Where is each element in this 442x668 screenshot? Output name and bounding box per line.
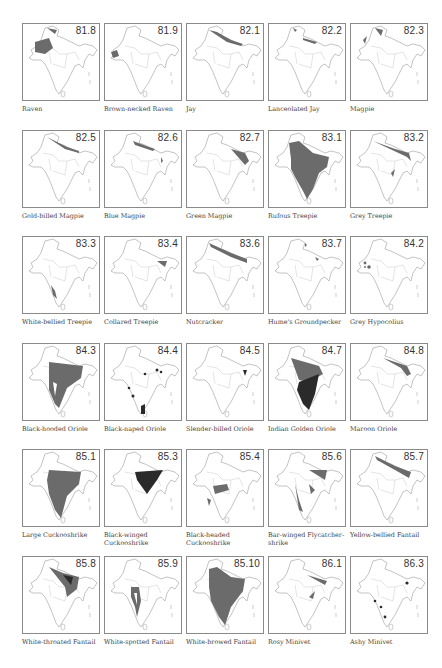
species-panel: 85.1 Large Cuckooshrike xyxy=(22,449,100,539)
species-code: 84.3 xyxy=(75,345,96,356)
species-panel: 85.6 Bar-winged Flycatcher-shrike xyxy=(268,449,346,547)
species-panel: 85.7 Yellow-bellied Fantail xyxy=(350,449,428,539)
species-name: White-throated Fantail xyxy=(22,638,100,646)
species-code: 84.7 xyxy=(321,345,342,356)
species-name: Indian Golden Oriole xyxy=(268,425,346,433)
species-name: Raven xyxy=(22,105,100,113)
species-name: White-browed Fantail xyxy=(186,638,264,646)
species-name: Black-naped Oriole xyxy=(104,425,182,433)
species-code: 85.1 xyxy=(75,451,96,462)
range-map: 86.3 xyxy=(350,556,428,634)
species-panel: 84.5 Slender-billed Oriole xyxy=(186,343,264,433)
range-map: 84.5 xyxy=(186,343,264,421)
species-code: 85.10 xyxy=(233,558,260,569)
range-map: 85.6 xyxy=(268,449,346,527)
species-name: Ashy Minivet xyxy=(350,638,428,646)
species-code: 86.1 xyxy=(321,558,342,569)
species-panel: 85.3 Black-winged Cuckooshrike xyxy=(104,449,182,547)
species-code: 85.7 xyxy=(403,451,424,462)
species-name: Grey Treepie xyxy=(350,212,428,220)
range-map: 85.8 xyxy=(22,556,100,634)
range-map: 83.6 xyxy=(186,236,264,314)
species-code: 82.6 xyxy=(157,132,178,143)
species-panel: 85.10 White-browed Fantail xyxy=(186,556,264,646)
species-panel: 85.8 White-throated Fantail xyxy=(22,556,100,646)
species-code: 85.3 xyxy=(157,451,178,462)
range-map: 84.4 xyxy=(104,343,182,421)
range-map: 85.3 xyxy=(104,449,182,527)
species-code: 84.8 xyxy=(403,345,424,356)
species-panel: 83.3 White-bellied Treepie xyxy=(22,236,100,326)
species-name: Brown-necked Raven xyxy=(104,105,182,113)
species-code: 81.8 xyxy=(75,25,96,36)
range-map: 82.5 xyxy=(22,130,100,208)
species-name: Maroon Oriole xyxy=(350,425,428,433)
range-map: 81.8 xyxy=(22,23,100,101)
range-map: 82.6 xyxy=(104,130,182,208)
species-code: 84.5 xyxy=(239,345,260,356)
species-code: 85.4 xyxy=(239,451,260,462)
species-code: 85.9 xyxy=(157,558,178,569)
range-map: 83.4 xyxy=(104,236,182,314)
species-code: 83.7 xyxy=(321,238,342,249)
species-panel: 84.2 Grey Hypocolius xyxy=(350,236,428,326)
range-map: 86.1 xyxy=(268,556,346,634)
species-name: Hume's Groundpecker xyxy=(268,318,346,326)
species-panel: 86.1 Rosy Minivet xyxy=(268,556,346,646)
species-code: 86.3 xyxy=(403,558,424,569)
species-name: Magpie xyxy=(350,105,428,113)
range-map: 85.10 xyxy=(186,556,264,634)
species-code: 83.3 xyxy=(75,238,96,249)
species-code: 83.1 xyxy=(321,132,342,143)
species-panel: 86.3 Ashy Minivet xyxy=(350,556,428,646)
species-name: Nutcracker xyxy=(186,318,264,326)
species-name: Large Cuckooshrike xyxy=(22,531,100,539)
species-panel: 82.3 Magpie xyxy=(350,23,428,113)
range-map: 83.3 xyxy=(22,236,100,314)
species-panel: 83.4 Collared Treepie xyxy=(104,236,182,326)
range-map: 84.3 xyxy=(22,343,100,421)
species-panel: 85.9 White-spotted Fantail xyxy=(104,556,182,646)
species-panel: 82.7 Green Magpie xyxy=(186,130,264,220)
species-panel: 84.8 Maroon Oriole xyxy=(350,343,428,433)
range-map: 82.7 xyxy=(186,130,264,208)
species-panel: 83.6 Nutcracker xyxy=(186,236,264,326)
species-name: Collared Treepie xyxy=(104,318,182,326)
species-code: 82.7 xyxy=(239,132,260,143)
species-code: 85.6 xyxy=(321,451,342,462)
species-name: Jay xyxy=(186,105,264,113)
species-panel: 82.1 Jay xyxy=(186,23,264,113)
species-panel: 83.7 Hume's Groundpecker xyxy=(268,236,346,326)
species-name: Green Magpie xyxy=(186,212,264,220)
species-panel: 81.8 Raven xyxy=(22,23,100,113)
range-map: 81.9 xyxy=(104,23,182,101)
range-map: 83.1 xyxy=(268,130,346,208)
species-code: 84.4 xyxy=(157,345,178,356)
range-map: 82.3 xyxy=(350,23,428,101)
species-name: Bar-winged Flycatcher-shrike xyxy=(268,531,346,547)
species-panel: 84.4 Black-naped Oriole xyxy=(104,343,182,433)
species-name: Grey Hypocolius xyxy=(350,318,428,326)
species-name: Gold-billed Magpie xyxy=(22,212,100,220)
species-name: Rufous Treepie xyxy=(268,212,346,220)
species-name: Lanceolated Jay xyxy=(268,105,346,113)
species-panel: 83.2 Grey Treepie xyxy=(350,130,428,220)
species-name: White-spotted Fantail xyxy=(104,638,182,646)
species-code: 81.9 xyxy=(157,25,178,36)
range-map: 83.2 xyxy=(350,130,428,208)
range-map: 83.7 xyxy=(268,236,346,314)
species-code: 84.2 xyxy=(403,238,424,249)
range-map: 84.7 xyxy=(268,343,346,421)
species-code: 82.3 xyxy=(403,25,424,36)
species-name: Slender-billed Oriole xyxy=(186,425,264,433)
species-code: 83.4 xyxy=(157,238,178,249)
species-panel: 85.4 Black-headed Cuckooshrike xyxy=(186,449,264,547)
range-map: 85.1 xyxy=(22,449,100,527)
range-map: 84.8 xyxy=(350,343,428,421)
species-panel: 84.7 Indian Golden Oriole xyxy=(268,343,346,433)
species-code: 85.8 xyxy=(75,558,96,569)
species-name: Rosy Minivet xyxy=(268,638,346,646)
species-panel: 82.6 Blue Magpie xyxy=(104,130,182,220)
species-code: 82.2 xyxy=(321,25,342,36)
species-code: 83.2 xyxy=(403,132,424,143)
